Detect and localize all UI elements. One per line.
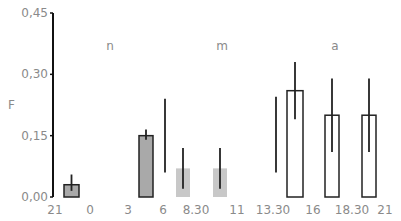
- bar: [139, 136, 153, 197]
- period-label: n: [106, 39, 114, 53]
- x-tick-labels: 210368.301113.301618.3021: [47, 203, 392, 217]
- x-tick-label: 3: [124, 203, 132, 217]
- x-tick-label: 16: [305, 203, 320, 217]
- y-axis: [50, 13, 53, 197]
- x-tick-label: 0: [86, 203, 94, 217]
- x-tick-label: 8.30: [183, 203, 210, 217]
- x-tick-label: 6: [159, 203, 167, 217]
- bars: [64, 62, 376, 197]
- period-label: a: [331, 39, 338, 53]
- y-tick-label: 0,00: [21, 190, 48, 204]
- y-tick-label: 0,15: [21, 129, 48, 143]
- x-tick-label: 13.30: [256, 203, 290, 217]
- x-tick-label: 21: [377, 203, 392, 217]
- bar-chart: 0,000,150,300,45 F nma 210368.301113.301…: [0, 0, 401, 221]
- y-axis-title: F: [8, 98, 15, 112]
- x-tick-label: 11: [229, 203, 244, 217]
- period-label: m: [216, 39, 228, 53]
- x-tick-label: 18.30: [335, 203, 369, 217]
- y-tick-label: 0,45: [21, 6, 48, 20]
- x-tick-label: 21: [47, 203, 62, 217]
- period-labels: nma: [106, 39, 338, 53]
- y-tick-labels: 0,000,150,300,45: [21, 6, 48, 204]
- y-tick-label: 0,30: [21, 67, 48, 81]
